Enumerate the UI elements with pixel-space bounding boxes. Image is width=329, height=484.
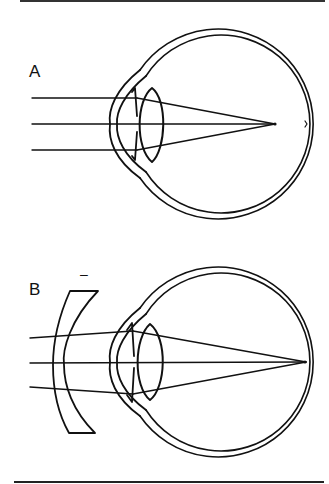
concave-lens <box>53 291 98 433</box>
panel-a-eye <box>32 29 313 219</box>
eye-diagram <box>0 0 329 484</box>
panel-b-eye <box>30 267 313 457</box>
focus-point-b <box>303 360 306 363</box>
focus-point-a <box>273 122 276 125</box>
